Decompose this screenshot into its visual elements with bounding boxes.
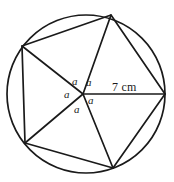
radius-to-lower-left-vertex bbox=[25, 94, 83, 143]
angle-label-bottom: a bbox=[74, 104, 80, 115]
angle-label-upper-left: a bbox=[72, 76, 78, 87]
geometry-figure: a a a a a 7 cm bbox=[0, 0, 174, 182]
geometry-diagram-canvas bbox=[0, 0, 174, 182]
angle-label-upper-right: a bbox=[86, 77, 92, 88]
radius-measurement-label: 7 cm bbox=[112, 81, 136, 93]
inscribed-pentagon bbox=[22, 15, 165, 168]
angle-label-left: a bbox=[64, 89, 70, 100]
angle-label-right: a bbox=[88, 95, 94, 106]
